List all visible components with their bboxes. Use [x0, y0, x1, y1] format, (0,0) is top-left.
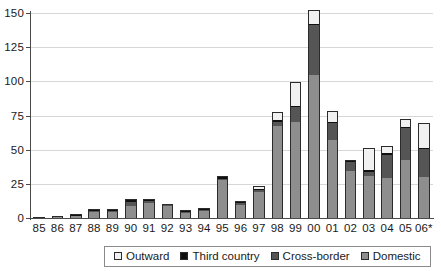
gridline-100: [30, 81, 433, 82]
bar-group: [418, 123, 430, 218]
legend-swatch-icon: [271, 252, 279, 260]
x-axis-label-94: 94: [195, 222, 213, 234]
bar-segment: [217, 180, 229, 218]
bar-segment: [290, 107, 302, 122]
legend-label: Outward: [126, 250, 169, 262]
gridline-125: [30, 47, 433, 48]
bar-segment: [272, 126, 284, 218]
bar-segment: [327, 111, 339, 123]
bar-segment: [143, 203, 155, 218]
bar-segment: [290, 82, 302, 106]
bar-segment: [198, 211, 210, 218]
bar-segment: [235, 205, 247, 218]
x-axis-label-99: 99: [286, 222, 304, 234]
x-axis-label-88: 88: [85, 222, 103, 234]
bar-group: [235, 201, 247, 218]
x-axis-label-04: 04: [378, 222, 396, 234]
bar-segment: [418, 123, 430, 147]
bar-segment: [345, 171, 357, 218]
bar-group: [400, 119, 412, 218]
x-axis-label-03: 03: [360, 222, 378, 234]
bar-segment: [400, 160, 412, 218]
stacked-bar-chart: 0255075100125150 85868788899091929394959…: [0, 0, 441, 271]
legend-swatch-icon: [180, 252, 188, 260]
bar-group: [253, 186, 265, 218]
legend-swatch-icon: [114, 252, 122, 260]
legend-label: Cross-border: [283, 250, 350, 262]
bar-group: [198, 208, 210, 218]
bar-segment: [400, 119, 412, 127]
y-axis-label-50: 50: [11, 144, 24, 156]
bar-group: [88, 209, 100, 218]
bar-segment: [327, 140, 339, 218]
plot-area: 0255075100125150: [30, 13, 433, 218]
x-axis-label-85: 85: [30, 222, 48, 234]
bar-group: [107, 209, 119, 218]
x-axis-label-91: 91: [140, 222, 158, 234]
x-axis-label-95: 95: [213, 222, 231, 234]
y-axis-label-75: 75: [11, 110, 24, 122]
bar-segment: [272, 112, 284, 120]
y-axis-label-25: 25: [11, 178, 24, 190]
bar-segment: [308, 75, 320, 219]
gridline-75: [30, 116, 433, 117]
bar-segment: [327, 123, 339, 140]
bar-group: [345, 160, 357, 218]
x-axis-label-92: 92: [158, 222, 176, 234]
bar-group: [272, 112, 284, 218]
x-axis-label-87: 87: [67, 222, 85, 234]
chart-legend: OutwardThird countryCross-borderDomestic: [104, 246, 431, 267]
x-axis-label-90: 90: [122, 222, 140, 234]
bar-group: [162, 204, 174, 218]
bar-group: [180, 210, 192, 218]
x-axis-label-93: 93: [177, 222, 195, 234]
x-axis-label-96: 96: [232, 222, 250, 234]
bar-group: [327, 111, 339, 218]
legend-item-cross-border[interactable]: Cross-border: [271, 250, 350, 262]
x-axis-label-97: 97: [250, 222, 268, 234]
bar-segment: [308, 10, 320, 24]
bar-segment: [381, 178, 393, 218]
x-axis-label-01: 01: [323, 222, 341, 234]
bar-segment: [381, 146, 393, 154]
bar-segment: [290, 122, 302, 218]
bar-group: [363, 148, 375, 218]
bar-segment: [400, 128, 412, 160]
bar-segment: [162, 206, 174, 218]
x-axis-label-86: 86: [48, 222, 66, 234]
x-axis-label-06star: 06*: [415, 222, 433, 234]
bar-group: [308, 10, 320, 218]
bar-segment: [363, 176, 375, 218]
bar-group: [290, 82, 302, 218]
legend-label: Domestic: [373, 250, 421, 262]
x-axis-label-89: 89: [103, 222, 121, 234]
y-axis-label-125: 125: [4, 41, 24, 53]
bar-segment: [308, 25, 320, 74]
legend-label: Third country: [192, 250, 259, 262]
bar-group: [381, 146, 393, 218]
legend-item-third-country[interactable]: Third country: [180, 250, 259, 262]
bar-segment: [418, 177, 430, 218]
gridline-150: [30, 13, 433, 14]
bar-segment: [418, 149, 430, 177]
y-axis-label-0: 0: [17, 212, 24, 224]
legend-item-outward[interactable]: Outward: [114, 250, 169, 262]
bar-group: [125, 199, 137, 218]
x-axis-label-05: 05: [396, 222, 414, 234]
bar-segment: [381, 155, 393, 178]
legend-swatch-icon: [361, 252, 369, 260]
legend-item-domestic[interactable]: Domestic: [361, 250, 421, 262]
y-axis-label-100: 100: [4, 75, 24, 87]
y-axis-line: [30, 11, 31, 220]
x-axis-line: [30, 218, 434, 219]
bar-segment: [345, 162, 357, 171]
x-axis-label-02: 02: [341, 222, 359, 234]
y-axis-label-150: 150: [4, 7, 24, 19]
x-axis-label-98: 98: [268, 222, 286, 234]
bar-segment: [253, 192, 265, 218]
x-axis-label-00: 00: [305, 222, 323, 234]
bar-segment: [125, 206, 137, 218]
bar-group: [143, 199, 155, 218]
bar-segment: [363, 148, 375, 171]
bar-group: [217, 176, 229, 218]
